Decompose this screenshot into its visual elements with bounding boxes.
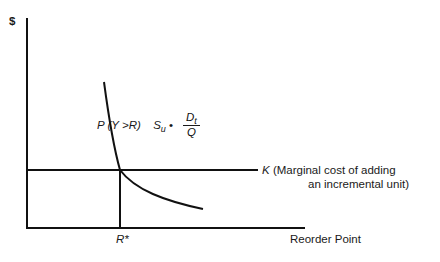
curve-label-fraction: Dt Q (183, 111, 200, 139)
curve-label-s-subscript: u (161, 124, 166, 134)
curve-label-prefix: P (Y >R) (97, 119, 141, 131)
k-label-line1: (Marginal cost of adding (273, 164, 396, 176)
r-star-label: R* (116, 232, 129, 246)
curve-label-s: S (153, 119, 161, 131)
k-symbol: K (262, 164, 270, 176)
stockout-cost-curve (104, 82, 203, 209)
diagram-canvas (0, 0, 440, 262)
x-axis-label: Reorder Point (290, 232, 361, 246)
curve-label-operator: • (169, 119, 173, 131)
fraction-denominator: Q (183, 126, 200, 139)
fraction-numerator-subscript: t (194, 116, 197, 126)
y-axis-label: $ (9, 14, 15, 28)
k-line-label: K (Marginal cost of adding (262, 163, 396, 177)
curve-label: P (Y >R) Su • (97, 118, 173, 133)
k-label-line2: an incremental unit) (308, 177, 409, 191)
